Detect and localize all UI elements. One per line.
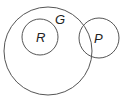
label-r: R <box>36 30 45 45</box>
circle-g <box>4 7 92 95</box>
venn-diagram: G R P <box>0 0 126 99</box>
label-p: P <box>94 31 103 46</box>
label-g: G <box>55 12 65 27</box>
